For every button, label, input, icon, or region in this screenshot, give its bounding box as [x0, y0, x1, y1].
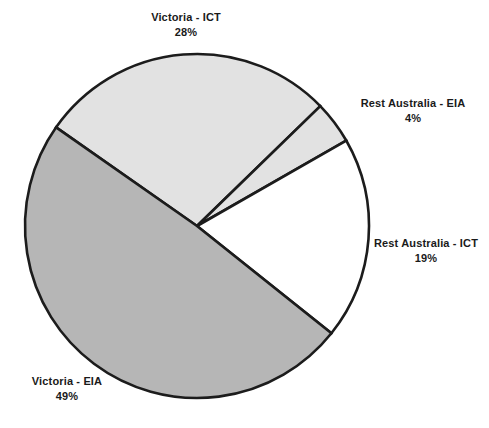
pie-label-rest-australia-eia-name: Rest Australia - EIA	[340, 96, 486, 111]
pie-label-victoria-ict: Victoria - ICT 28%	[120, 10, 252, 39]
pie-label-rest-australia-ict-name: Rest Australia - ICT	[362, 236, 489, 251]
pie-label-victoria-ict-name: Victoria - ICT	[120, 10, 252, 25]
pie-label-victoria-eia: Victoria - EIA 49%	[2, 374, 132, 403]
pie-label-rest-australia-ict: Rest Australia - ICT 19%	[362, 236, 489, 265]
pie-chart: Victoria - ICT 28% Rest Australia - EIA …	[0, 0, 489, 428]
pie-label-rest-australia-ict-value: 19%	[362, 251, 489, 266]
pie-label-victoria-eia-value: 49%	[2, 389, 132, 404]
pie-label-victoria-eia-name: Victoria - EIA	[2, 374, 132, 389]
pie-slice-group	[25, 54, 369, 398]
pie-label-rest-australia-eia: Rest Australia - EIA 4%	[340, 96, 486, 125]
pie-chart-canvas	[0, 0, 489, 428]
pie-label-victoria-ict-value: 28%	[120, 25, 252, 40]
pie-label-rest-australia-eia-value: 4%	[340, 111, 486, 126]
